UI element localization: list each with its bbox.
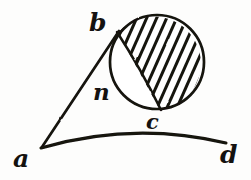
vertex-label-c: c xyxy=(146,111,159,132)
segment-a-to-d xyxy=(41,133,226,148)
region-label-n: n xyxy=(93,80,110,103)
diagram-canvas: a b c d n xyxy=(0,0,251,180)
vertex-label-a: a xyxy=(13,146,29,171)
vertex-label-d: d xyxy=(220,142,237,167)
geometry-figure xyxy=(0,0,251,180)
vertex-label-b: b xyxy=(89,10,106,35)
